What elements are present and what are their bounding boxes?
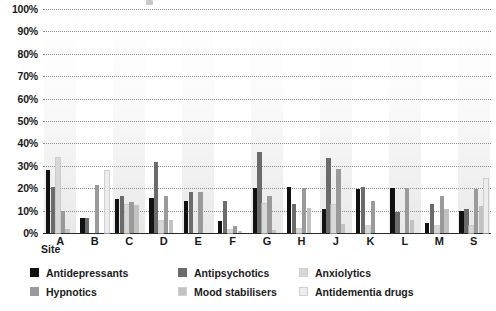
bar bbox=[134, 205, 138, 233]
bar-group bbox=[146, 9, 180, 233]
bar bbox=[395, 212, 399, 233]
y-axis-tick-label: 40% bbox=[18, 137, 38, 149]
legend-swatch-icon bbox=[178, 268, 187, 277]
bar-group bbox=[215, 9, 249, 233]
legend-swatch-icon bbox=[299, 287, 308, 296]
y-axis: 0%10%20%30%40%50%60%70%80%90%100% bbox=[0, 0, 43, 240]
bar bbox=[56, 158, 60, 233]
bar bbox=[184, 201, 188, 233]
bar bbox=[459, 211, 463, 233]
bar bbox=[218, 221, 222, 233]
bar-group bbox=[319, 9, 353, 233]
bar bbox=[292, 204, 296, 233]
y-axis-tick-label: 100% bbox=[12, 3, 38, 15]
bar bbox=[361, 187, 365, 233]
x-axis-tick-label: K bbox=[366, 235, 374, 247]
x-axis-tick-label: B bbox=[91, 235, 99, 247]
bar-group bbox=[457, 9, 491, 233]
x-axis-tick-label: L bbox=[401, 235, 408, 247]
x-axis-tick-label: J bbox=[333, 235, 339, 247]
bar bbox=[115, 199, 119, 233]
legend-label: Mood stabilisers bbox=[194, 286, 277, 298]
bar bbox=[322, 209, 326, 233]
bar bbox=[129, 202, 133, 233]
y-axis-tick-label: 0% bbox=[23, 227, 38, 239]
bar bbox=[80, 218, 84, 233]
bar bbox=[267, 196, 271, 233]
bar bbox=[390, 188, 394, 233]
bar bbox=[189, 192, 193, 233]
legend-item-mood-stabilisers: Mood stabilisers bbox=[178, 286, 299, 298]
bar bbox=[410, 220, 414, 233]
legend-item-antidepressants: Antidepressants bbox=[30, 267, 178, 279]
bar bbox=[366, 226, 370, 233]
bar bbox=[61, 211, 65, 233]
bar bbox=[469, 226, 473, 233]
legend-swatch-icon bbox=[30, 287, 39, 296]
legend-item-antidementia-drugs: Antidementia drugs bbox=[299, 286, 459, 298]
legend-swatch-icon bbox=[299, 268, 308, 277]
bar bbox=[120, 196, 124, 233]
legend-label: Anxiolytics bbox=[315, 267, 371, 279]
bar bbox=[336, 169, 340, 233]
bar-group bbox=[112, 9, 146, 233]
legend-item-anxiolytics: Anxiolytics bbox=[299, 267, 459, 279]
bar bbox=[331, 205, 335, 233]
bars-layer bbox=[43, 9, 491, 233]
x-axis-title: Site bbox=[41, 243, 60, 255]
bar bbox=[223, 201, 227, 233]
bar-group bbox=[284, 9, 318, 233]
legend-swatch-icon bbox=[178, 287, 187, 296]
bar-group bbox=[77, 9, 111, 233]
bar bbox=[154, 162, 158, 233]
bar bbox=[371, 201, 375, 233]
x-axis-tick-label: G bbox=[263, 235, 272, 247]
bar bbox=[46, 170, 50, 233]
bar bbox=[287, 187, 291, 233]
legend-label: Antipsychotics bbox=[194, 267, 269, 279]
bar bbox=[479, 206, 483, 233]
y-axis-tick-label: 50% bbox=[18, 115, 38, 127]
x-axis-tick-label: M bbox=[435, 235, 444, 247]
bar bbox=[474, 189, 478, 233]
x-axis-tick-label: C bbox=[125, 235, 133, 247]
bar-group bbox=[422, 9, 456, 233]
x-axis-tick-label: D bbox=[160, 235, 168, 247]
bar-group bbox=[388, 9, 422, 233]
bar bbox=[405, 188, 409, 233]
y-axis-tick-label: 90% bbox=[18, 25, 38, 37]
bar bbox=[233, 226, 237, 233]
legend-row-2: Hypnotics Mood stabilisers Antidementia … bbox=[30, 282, 470, 301]
bar bbox=[262, 204, 266, 233]
bar bbox=[307, 208, 311, 233]
legend-item-hypnotics: Hypnotics bbox=[30, 286, 178, 298]
x-axis-tick-label: E bbox=[194, 235, 201, 247]
bar bbox=[430, 204, 434, 233]
y-axis-tick-label: 80% bbox=[18, 48, 38, 60]
truncated-title-mark bbox=[146, 0, 153, 5]
bar bbox=[51, 187, 55, 233]
bar bbox=[356, 189, 360, 233]
y-axis-tick-label: 20% bbox=[18, 182, 38, 194]
bar bbox=[302, 188, 306, 233]
bar bbox=[425, 223, 429, 233]
bar bbox=[198, 192, 202, 233]
bar bbox=[164, 196, 168, 233]
bar bbox=[326, 158, 330, 233]
bar bbox=[169, 220, 173, 233]
bar bbox=[105, 171, 109, 233]
legend-label: Hypnotics bbox=[46, 286, 97, 298]
legend-label: Antidepressants bbox=[46, 267, 128, 279]
bar bbox=[444, 209, 448, 233]
bar bbox=[341, 224, 345, 233]
bar bbox=[85, 218, 89, 233]
legend-item-antipsychotics: Antipsychotics bbox=[178, 267, 299, 279]
bar bbox=[125, 205, 129, 233]
bar-group bbox=[43, 9, 77, 233]
legend-swatch-icon bbox=[30, 268, 39, 277]
bar bbox=[257, 152, 261, 233]
y-axis-tick-label: 60% bbox=[18, 93, 38, 105]
y-axis-tick-label: 10% bbox=[18, 205, 38, 217]
bar bbox=[435, 226, 439, 233]
legend-label: Antidementia drugs bbox=[315, 286, 414, 298]
